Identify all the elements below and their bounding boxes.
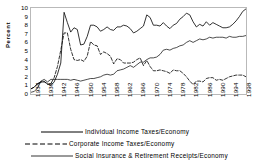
x-axis-tick: 1954	[100, 82, 107, 97]
y-axis-title: Percent	[5, 11, 11, 59]
legend-item: Individual Income Taxes/Economy	[40, 126, 189, 137]
y-axis-tick: 7	[25, 31, 28, 37]
x-axis-tick: 1942	[60, 82, 67, 97]
x-axis-tick: 1974	[166, 82, 173, 97]
legend-item: Corporate Income Taxes/Economy	[24, 138, 174, 149]
legend-line-swatch	[40, 128, 84, 136]
legend-item-label: Social Insurance & Retirement Receipts/E…	[75, 152, 228, 159]
y-axis-tick: 10	[21, 5, 28, 11]
x-axis-tick: 1986	[206, 82, 213, 97]
chart-legend: Individual Income Taxes/EconomyCorporate…	[0, 126, 253, 163]
y-axis-tick: 8	[25, 22, 28, 28]
x-axis-tick: 1970	[153, 82, 160, 97]
x-axis-tick: 1946	[73, 82, 80, 97]
x-axis-tick: 1934	[34, 82, 41, 97]
x-axis-tick: 1994	[232, 82, 239, 97]
chart-container: Percent 109876543210 1934193819421946195…	[0, 0, 253, 163]
series-line	[31, 9, 246, 89]
y-axis-tick: 0	[25, 91, 28, 97]
x-axis-tick: 1962	[126, 82, 133, 97]
series-line	[31, 33, 246, 89]
y-axis-tick: 4	[25, 57, 28, 63]
legend-item: Social Insurance & Retirement Receipts/E…	[30, 150, 228, 161]
y-axis-tick: 5	[25, 48, 28, 54]
y-axis-tick: 3	[25, 65, 28, 71]
y-axis-tick: 1	[25, 82, 28, 88]
legend-item-label: Individual Income Taxes/Economy	[85, 128, 189, 135]
x-axis-tick: 1958	[113, 82, 120, 97]
legend-line-swatch	[30, 152, 74, 160]
x-axis-tick: 1990	[219, 82, 226, 97]
x-axis-tick: 1938	[47, 82, 54, 97]
x-axis-tick: 1978	[179, 82, 186, 97]
y-axis-tick: 6	[25, 39, 28, 45]
y-axis-tick: 9	[25, 14, 28, 20]
legend-line-swatch	[24, 140, 68, 148]
legend-item-label: Corporate Income Taxes/Economy	[69, 140, 174, 147]
x-axis-tick: 1950	[87, 82, 94, 97]
x-axis-tick-labels: 1934193819421946195019541958196219661970…	[30, 96, 247, 124]
x-axis-tick: 1998	[245, 82, 252, 97]
y-axis-tick: 2	[25, 74, 28, 80]
x-axis-tick: 1982	[192, 82, 199, 97]
x-axis-tick: 1966	[139, 82, 146, 97]
